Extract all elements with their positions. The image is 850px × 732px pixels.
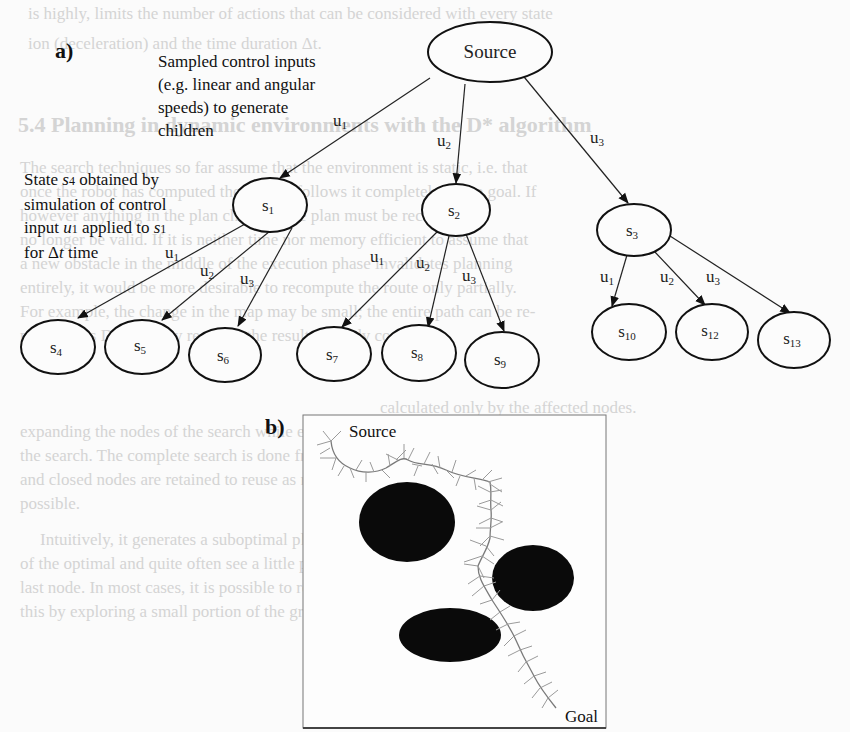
map-source-label: Source (349, 422, 396, 441)
edge-s2-s7 (342, 231, 438, 327)
edge-s2-s8 (428, 236, 449, 327)
obstacle-3 (399, 608, 501, 662)
obstacle-1 (359, 482, 455, 562)
edge-label-s2-s9: u3 (462, 266, 477, 286)
edge-s3-s13 (670, 236, 790, 313)
edge-label-s2-s7: u1 (370, 247, 384, 267)
edge-s3-s10 (612, 255, 627, 306)
edge-label-source-s1: u1 (333, 111, 347, 131)
edge-source-s3 (520, 72, 628, 203)
obstacle-2 (492, 545, 574, 611)
edge-source-s1 (280, 78, 430, 178)
edge-label-s3-s13: u3 (706, 267, 721, 287)
edge-label-s1-s5: u2 (200, 261, 214, 281)
map-goal-label: Goal (565, 707, 598, 726)
edge-label-s1-s6: u3 (240, 269, 255, 289)
edge-label-s1-s4: u1 (165, 243, 179, 263)
node-source-label: Source (464, 41, 517, 62)
edge-label-source-s2: u2 (437, 131, 451, 151)
edge-s1-s4 (78, 224, 245, 318)
panel-b-map: Source Goal (303, 415, 606, 728)
edge-label-s2-s8: u2 (416, 253, 430, 273)
edge-s1-s5 (162, 231, 270, 320)
edge-source-s2 (456, 84, 465, 183)
edge-label-source-s3: u3 (590, 128, 605, 148)
search-tree-diagram: u1 u2 u3 u1 u2 u3 u1 u2 u3 u1 u2 u3 Sour… (0, 0, 850, 732)
edge-label-s3-s10: u1 (600, 267, 614, 287)
